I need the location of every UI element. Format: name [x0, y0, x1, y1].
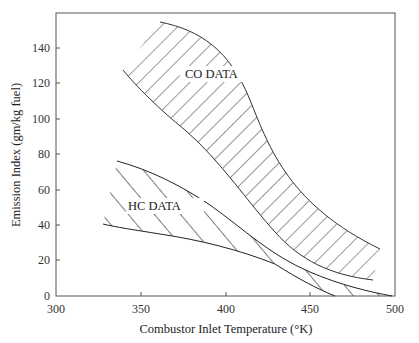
svg-text:100: 100 — [32, 112, 50, 126]
x-ticks — [141, 292, 310, 296]
x-axis-title: Combustor Inlet Temperature (°K) — [140, 322, 313, 336]
co-data-label: CO DATA — [185, 67, 238, 81]
svg-text:450: 450 — [301, 302, 319, 316]
svg-text:0: 0 — [44, 289, 50, 303]
chart: CO DATA HC DATA 300 350 400 450 500 0 20… — [0, 0, 419, 343]
svg-text:350: 350 — [132, 302, 150, 316]
svg-text:300: 300 — [47, 302, 65, 316]
y-ticks — [56, 48, 60, 260]
y-tick-labels: 0 20 40 60 80 100 120 140 — [32, 41, 50, 303]
svg-text:120: 120 — [32, 76, 50, 90]
x-tick-labels: 300 350 400 450 500 — [47, 302, 404, 316]
svg-text:400: 400 — [217, 302, 235, 316]
svg-text:40: 40 — [38, 218, 50, 232]
y-axis-title: Emission Index (gm/kg fuel) — [9, 83, 23, 227]
svg-text:140: 140 — [32, 41, 50, 55]
svg-text:500: 500 — [386, 302, 404, 316]
svg-text:80: 80 — [38, 147, 50, 161]
hc-data-label: HC DATA — [128, 199, 181, 213]
svg-text:60: 60 — [38, 183, 50, 197]
svg-text:20: 20 — [38, 253, 50, 267]
